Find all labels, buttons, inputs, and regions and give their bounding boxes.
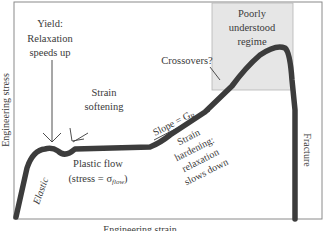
y-axis-label: Engineering stress	[0, 73, 11, 147]
crossovers-label: Crossovers?	[161, 55, 213, 66]
softening-label-line2: softening	[84, 101, 124, 112]
softening-label-line1: Strain	[91, 87, 117, 98]
plastic-flow-line2: (stress = σflow)	[68, 173, 128, 186]
regime-label-line2: understood	[229, 22, 276, 33]
plastic-flow-line1: Plastic flow	[73, 158, 123, 169]
fracture-label: Fracture	[302, 133, 313, 167]
yield-arrowhead-left	[43, 133, 52, 142]
plastic-flow-subscript: flow	[112, 178, 124, 186]
stress-strain-diagram: Yield: Relaxation speeds up Strain softe…	[0, 0, 324, 231]
regime-label-line3: regime	[237, 36, 266, 47]
elastic-text: Elastic	[30, 175, 50, 206]
yield-arrowhead-right	[52, 133, 61, 142]
x-axis-label: Engineering strain	[103, 224, 177, 231]
y-axis-label-text: Engineering stress	[0, 73, 11, 147]
plastic-flow-suffix: )	[124, 173, 128, 185]
plastic-flow-prefix: (stress = σ	[68, 173, 112, 185]
softening-arrowhead-a	[70, 128, 72, 141]
fracture-text: Fracture	[302, 133, 313, 167]
yield-label-line3: speeds up	[29, 47, 70, 58]
elastic-label: Elastic	[30, 175, 50, 206]
regime-label-line1: Poorly	[238, 8, 267, 19]
yield-label-line2: Relaxation	[27, 33, 73, 44]
yield-label-line1: Yield:	[37, 18, 63, 29]
